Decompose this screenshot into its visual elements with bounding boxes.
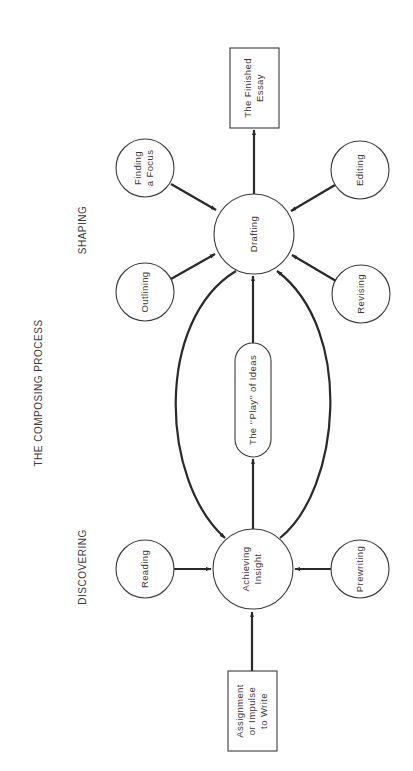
node-reading: Reading bbox=[116, 540, 174, 598]
node-label: Prewriting bbox=[354, 546, 365, 592]
edge-editing-to-drafting bbox=[291, 185, 335, 211]
node-label: Drafting bbox=[248, 216, 259, 252]
node-achieving-insight: Achieving Insight bbox=[213, 529, 293, 609]
node-assignment: Assignment or Impulse to Write bbox=[228, 671, 277, 751]
node-label: Outlining bbox=[139, 271, 150, 312]
node-label: or Impulse bbox=[246, 687, 257, 735]
edge-insight-to-drafting-curve bbox=[277, 271, 330, 538]
edge-outlining-to-drafting bbox=[171, 254, 215, 279]
node-label: Essay bbox=[254, 74, 265, 102]
node-prewriting: Prewriting bbox=[331, 540, 389, 598]
node-revising: Revising bbox=[332, 265, 390, 323]
node-play-of-ideas: The ‘‘Play’’ of Ideas bbox=[235, 343, 271, 457]
node-drafting: Drafting bbox=[214, 194, 294, 274]
node-label: Revising bbox=[355, 274, 366, 314]
edge-focus-to-drafting bbox=[171, 184, 216, 210]
node-finished-essay: The Finished Essay bbox=[230, 48, 279, 128]
node-label: a Focus bbox=[144, 150, 155, 187]
node-label: Insight bbox=[252, 554, 263, 585]
node-label: The Finished bbox=[242, 58, 253, 118]
section-label-shaping: SHAPING bbox=[77, 206, 88, 255]
section-label-discovering: DISCOVERING bbox=[77, 529, 88, 605]
edge-revising-to-drafting bbox=[292, 255, 336, 281]
node-label: Editing bbox=[354, 154, 365, 186]
node-label: Finding bbox=[132, 151, 143, 185]
composing-process-diagram: THE COMPOSING PROCESS SHAPING DISCOVERIN… bbox=[0, 0, 413, 771]
diagram-title: THE COMPOSING PROCESS bbox=[33, 319, 44, 466]
node-label: Reading bbox=[139, 550, 150, 588]
node-editing: Editing bbox=[331, 141, 389, 199]
node-label: The ‘‘Play’’ of Ideas bbox=[247, 355, 258, 445]
edge-drafting-to-insight-curve bbox=[176, 271, 236, 538]
node-label: Achieving bbox=[240, 547, 251, 592]
node-label: to Write bbox=[258, 693, 269, 729]
node-finding-a-focus: Finding a Focus bbox=[116, 139, 174, 197]
node-label: Assignment bbox=[234, 684, 245, 738]
node-outlining: Outlining bbox=[116, 263, 174, 321]
